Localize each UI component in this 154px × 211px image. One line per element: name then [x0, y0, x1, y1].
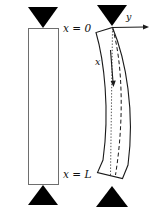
top-support-triangle-straight — [28, 7, 58, 28]
buckled-column-group — [96, 5, 130, 207]
y-axis-arrowhead — [143, 24, 149, 29]
label-x-equals-L: x = L — [63, 169, 91, 180]
y-axis-arrow-shaft — [112, 27, 145, 28]
bottom-support-triangle-buckled — [96, 186, 128, 207]
undeformed-column-group — [28, 7, 59, 205]
label-x-equals-zero: x = 0 — [63, 23, 91, 34]
buckled-column-body — [96, 28, 130, 179]
top-support-triangle-buckled — [97, 5, 127, 26]
label-x-axis: x — [95, 57, 100, 67]
bottom-support-triangle-straight — [28, 185, 58, 205]
label-y-axis: y — [126, 12, 131, 22]
undeformed-column-body — [29, 29, 59, 185]
column-buckling-figure: x = 0 x = L y x — [0, 0, 154, 211]
